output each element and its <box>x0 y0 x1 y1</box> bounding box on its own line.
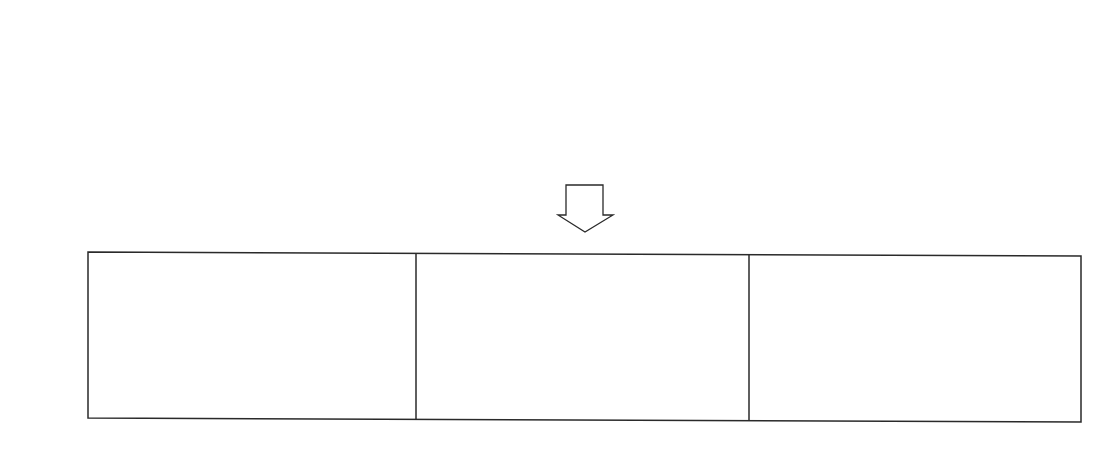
group-boxes <box>88 252 1081 422</box>
hollow-down-arrow-icon <box>558 185 613 232</box>
outer-box <box>88 252 1081 422</box>
fraction-diagram <box>0 0 1107 470</box>
